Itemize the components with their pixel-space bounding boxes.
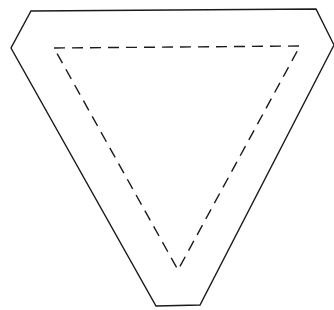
diagram-canvas (0, 0, 334, 310)
